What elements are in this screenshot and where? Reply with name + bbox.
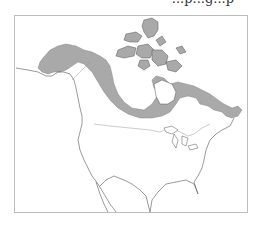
great-lakes (164, 126, 198, 150)
arctic-islands (116, 18, 186, 72)
range-map (0, 0, 262, 230)
